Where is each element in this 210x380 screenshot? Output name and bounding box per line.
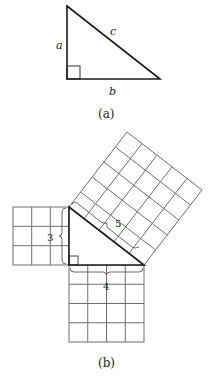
- figure-b: 3 4 5 (b): [13, 132, 202, 370]
- caption-a: (a): [98, 107, 115, 121]
- square-4x4: [69, 265, 144, 342]
- caption-b: (b): [98, 356, 115, 370]
- figure-a: a c b (a): [56, 6, 160, 121]
- side-3-label: 3: [47, 232, 53, 243]
- pythagorean-diagram: a c b (a): [0, 0, 210, 380]
- side-4-label: 4: [103, 281, 109, 292]
- right-triangle-b: [69, 207, 144, 265]
- side-c-label: c: [110, 25, 116, 38]
- side-a-label: a: [56, 39, 63, 52]
- brace-3: [59, 208, 66, 264]
- right-angle-marker-a: [67, 66, 80, 79]
- right-triangle-a: [67, 6, 160, 79]
- side-5-label: 5: [115, 218, 121, 229]
- side-b-label: b: [109, 85, 116, 98]
